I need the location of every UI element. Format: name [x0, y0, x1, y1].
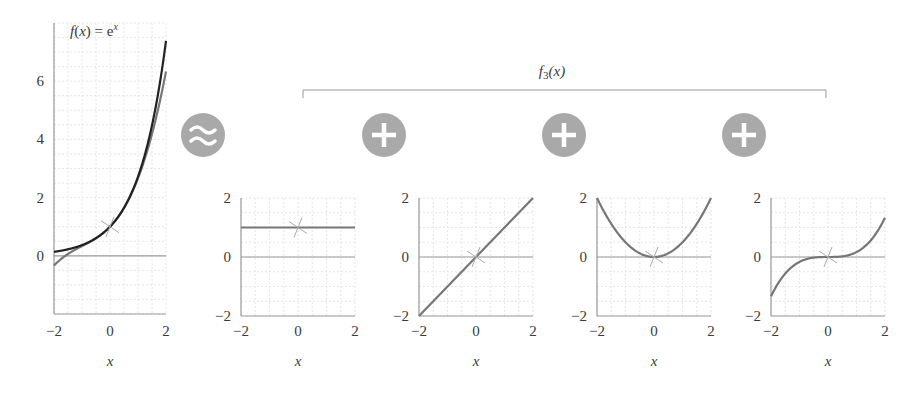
x-tick-label: −2	[763, 323, 779, 339]
y-tick-label: 0	[37, 248, 45, 264]
main-plot-label: f(x) = ex	[70, 21, 118, 40]
figure-canvas: f3(x) 0246−202x −202−202x −202−202x −202…	[0, 0, 912, 393]
term-plot-quadratic: −202−202x	[571, 190, 715, 369]
x-tick-label: 2	[351, 323, 359, 339]
y-tick-label: 2	[580, 190, 588, 206]
plus-icon	[722, 113, 766, 157]
y-tick-label: −2	[393, 308, 409, 324]
y-tick-label: 2	[224, 190, 232, 206]
x-tick-label: 2	[162, 323, 170, 339]
x-tick-label: 0	[824, 323, 832, 339]
main-plot-exp: 0246−202x	[37, 23, 170, 369]
x-axis-label: x	[294, 353, 302, 369]
y-tick-label: 2	[754, 190, 762, 206]
x-tick-label: 2	[707, 323, 715, 339]
x-tick-label: 0	[472, 323, 480, 339]
term-plot-linear: −202−202x	[393, 190, 537, 369]
x-tick-label: 0	[650, 323, 658, 339]
y-tick-label: 2	[37, 190, 45, 206]
x-tick-label: 0	[106, 323, 114, 339]
y-tick-label: 0	[402, 249, 410, 265]
x-tick-label: 2	[529, 323, 537, 339]
x-tick-label: 2	[881, 323, 889, 339]
x-tick-label: −2	[411, 323, 427, 339]
y-tick-label: −2	[571, 308, 587, 324]
f3-label: f3(x)	[539, 63, 565, 81]
plus-icon	[362, 113, 406, 157]
y-tick-label: 2	[402, 190, 410, 206]
plus-icon	[542, 113, 586, 157]
approx-icon	[181, 113, 225, 157]
y-tick-label: 0	[754, 249, 762, 265]
x-axis-label: x	[472, 353, 480, 369]
term-plot-cubic: −202−202x	[745, 190, 889, 369]
term-plot-constant: −202−202x	[215, 190, 359, 369]
f3-bracket: f3(x)	[303, 63, 826, 98]
x-tick-label: −2	[589, 323, 605, 339]
y-tick-label: −2	[215, 308, 231, 324]
x-tick-label: −2	[46, 323, 62, 339]
y-tick-label: 6	[37, 73, 45, 89]
x-axis-label: x	[650, 353, 658, 369]
y-tick-label: 0	[224, 249, 232, 265]
x-axis-label: x	[824, 353, 832, 369]
x-tick-label: 0	[294, 323, 302, 339]
x-axis-label: x	[106, 353, 114, 369]
y-tick-label: 0	[580, 249, 588, 265]
y-tick-label: −2	[745, 308, 761, 324]
x-tick-label: −2	[233, 323, 249, 339]
y-tick-label: 4	[37, 131, 45, 147]
